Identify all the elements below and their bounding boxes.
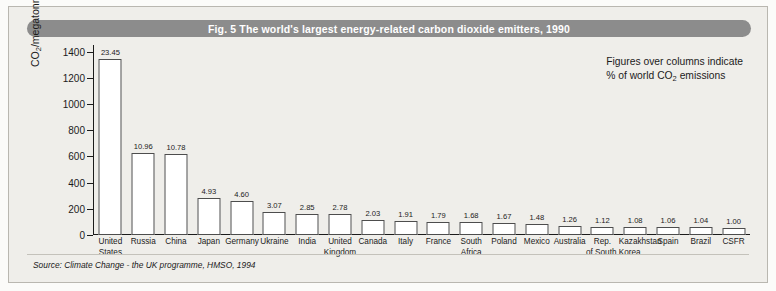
bar-value-label: 1.91	[398, 210, 413, 219]
bar-slot: 10.96	[127, 45, 160, 235]
bar-value-label: 1.06	[661, 216, 676, 225]
bar[interactable]	[558, 226, 581, 235]
y-tick-label: 1400	[63, 46, 85, 57]
y-tick-label: 1200	[63, 72, 85, 83]
bar[interactable]	[132, 153, 155, 235]
bar-slot: 4.93	[192, 45, 225, 235]
x-tick-label: Japan	[192, 237, 225, 248]
bar[interactable]	[591, 227, 614, 235]
bar[interactable]	[394, 221, 417, 235]
bar[interactable]	[361, 220, 384, 235]
bar-value-label: 10.96	[134, 142, 153, 151]
bar-value-label: 23.45	[101, 48, 120, 57]
bar[interactable]	[525, 224, 548, 235]
bar-slot: 1.48	[520, 45, 553, 235]
x-tick-label: Spain	[652, 237, 685, 248]
bar[interactable]	[689, 227, 712, 235]
annotation-line-2: % of world CO2 emissions	[606, 69, 743, 86]
bar-slot: 1.67	[488, 45, 521, 235]
bar-slot: 2.78	[324, 45, 357, 235]
bar-value-label: 1.12	[595, 216, 610, 225]
bar[interactable]	[460, 222, 483, 235]
bar[interactable]	[197, 198, 220, 235]
bar-value-label: 1.04	[693, 216, 708, 225]
y-tick-label: 400	[68, 177, 85, 188]
y-tick-label: 600	[68, 151, 85, 162]
bar-slot: 10.78	[160, 45, 193, 235]
bar-value-label: 3.07	[267, 201, 282, 210]
annotation-prefix: % of world CO	[606, 70, 672, 81]
annotation-suffix: emissions	[677, 70, 726, 81]
bar-value-label: 2.78	[333, 203, 348, 212]
y-axis-title-prefix: CO	[29, 51, 41, 67]
x-tick-label: Poland	[488, 237, 521, 248]
x-tick-label: Russia	[127, 237, 160, 248]
bar-value-label: 1.00	[726, 217, 741, 226]
bar[interactable]	[427, 222, 450, 235]
bar[interactable]	[722, 228, 745, 235]
bar-slot: 4.60	[225, 45, 258, 235]
y-tick-label: 800	[68, 125, 85, 136]
source-divider	[27, 254, 749, 255]
bar[interactable]	[656, 227, 679, 235]
x-tick-label: CSFR	[717, 237, 750, 248]
source-caption: Source: Climate Change - the UK programm…	[33, 260, 256, 270]
bar[interactable]	[230, 201, 253, 235]
bar-value-label: 2.85	[300, 203, 315, 212]
bar-slot: 2.85	[291, 45, 324, 235]
y-tick-label: 200	[68, 203, 85, 214]
bar-slot: 23.45	[94, 45, 127, 235]
bar[interactable]	[99, 59, 122, 235]
x-tick-label: Mexico	[520, 237, 553, 248]
bar-slot: 1.68	[455, 45, 488, 235]
y-axis-ticks: 0200400600800100012001400	[41, 45, 93, 235]
bar-value-label: 2.03	[365, 209, 380, 218]
bar[interactable]	[492, 223, 515, 235]
bar-value-label: 1.48	[529, 213, 544, 222]
figure-panel: Fig. 5 The world's largest energy-relate…	[8, 6, 768, 283]
bar-value-label: 4.93	[201, 187, 216, 196]
bar[interactable]	[296, 214, 319, 235]
bar-value-label: 1.08	[628, 216, 643, 225]
annotation-line-1: Figures over columns indicate	[606, 55, 743, 69]
x-tick-label: Ukraine	[258, 237, 291, 248]
bar-value-label: 1.26	[562, 215, 577, 224]
bar-slot: 3.07	[258, 45, 291, 235]
bar[interactable]	[624, 227, 647, 235]
bar-slot: 1.91	[389, 45, 422, 235]
x-tick-label: Italy	[389, 237, 422, 248]
x-tick-label: Australia	[553, 237, 586, 248]
x-tick-label: Germany	[225, 237, 258, 248]
bar[interactable]	[328, 214, 351, 235]
bar-slot: 1.26	[553, 45, 586, 235]
figure-title-bar: Fig. 5 The world's largest energy-relate…	[27, 20, 751, 37]
bar-slot: 2.03	[356, 45, 389, 235]
x-tick-label: Brazil	[684, 237, 717, 248]
bar-value-label: 4.60	[234, 190, 249, 199]
bar-value-label: 1.79	[431, 211, 446, 220]
x-tick-label: France	[422, 237, 455, 248]
x-tick-label: China	[160, 237, 193, 248]
bar-value-label: 10.78	[166, 143, 185, 152]
x-tick-label: Canada	[356, 237, 389, 248]
bar[interactable]	[263, 212, 286, 235]
y-tick-label: 1000	[63, 98, 85, 109]
y-axis-title-suffix: /megatonnes of carbon	[29, 0, 41, 47]
bar[interactable]	[164, 154, 187, 235]
annotation-note: Figures over columns indicate % of world…	[606, 55, 743, 86]
bar-value-label: 1.67	[497, 212, 512, 221]
x-tick-label: Kazakhstan	[619, 237, 652, 248]
bar-value-label: 1.68	[464, 211, 479, 220]
x-tick-label: India	[291, 237, 324, 248]
bar-slot: 1.79	[422, 45, 455, 235]
y-tick-label: 0	[79, 230, 85, 241]
page-title: Fig. 5 The world's largest energy-relate…	[208, 23, 570, 35]
